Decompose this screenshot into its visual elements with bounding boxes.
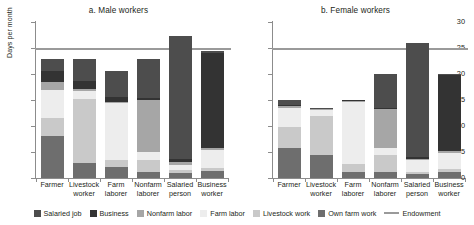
bar-segment [438, 75, 461, 151]
y-axis-tick [31, 100, 36, 101]
x-axis-category-label: Businessworker [429, 181, 469, 198]
bar-segment [105, 71, 128, 97]
x-axis-label-line2: worker [429, 190, 469, 199]
bar-segment [342, 172, 365, 178]
stacked-bar [105, 71, 128, 178]
stacked-bar [278, 100, 301, 178]
y-axis-tick [268, 126, 273, 127]
stacked-bar [169, 36, 192, 178]
legend-label: Business [100, 209, 129, 218]
stacked-bar [342, 99, 365, 178]
bar-segment [73, 99, 96, 162]
figure-stacked-bar-days-per-month: a. Male workers Days per month 051015202… [0, 0, 474, 225]
bar-segment [105, 167, 128, 178]
bar-segment [137, 100, 160, 152]
stacked-bar [201, 51, 224, 178]
bar-segment [438, 153, 461, 170]
stacked-bar [438, 74, 461, 178]
y-axis-tick [31, 74, 36, 75]
legend-label: Livestock work [263, 209, 310, 218]
y-axis-tick [268, 152, 273, 153]
bar-segment [73, 91, 96, 99]
bar-segment [438, 172, 461, 178]
bar-segment [105, 103, 128, 160]
bar-segment [169, 173, 192, 178]
legend-swatch [90, 210, 97, 217]
bar-segment [41, 136, 64, 178]
bar-segment [374, 109, 397, 149]
bar-segment [342, 102, 365, 165]
legend-label: Salaried job [44, 209, 82, 218]
legend-swatch [253, 210, 260, 217]
bar-segment [406, 174, 429, 178]
y-axis-tick-label: 5 [461, 148, 465, 155]
bar-segment [278, 108, 301, 127]
endowment-line [35, 48, 231, 50]
bar-segment [169, 36, 192, 159]
bar-segment [41, 118, 64, 137]
y-axis-tick [268, 74, 273, 75]
legend-label: Own farm work [328, 209, 376, 218]
y-axis-label-male: Days per month [6, 47, 13, 58]
legend-item: Business [90, 209, 129, 218]
legend-swatch [200, 210, 207, 217]
bar-segment [41, 82, 64, 90]
legend-swatch [318, 210, 325, 217]
bar-segment [201, 171, 224, 178]
y-axis-tick-label: 30 [457, 18, 465, 25]
bar-segment [137, 152, 160, 160]
bar-segment [137, 172, 160, 178]
endowment-line [272, 48, 468, 50]
stacked-bar [374, 73, 397, 178]
y-axis-tick [31, 22, 36, 23]
bar-segment [374, 148, 397, 155]
bar-segment [201, 53, 224, 148]
bar-segment [310, 155, 333, 178]
panel-male-workers: a. Male workers Days per month 051015202… [0, 0, 237, 200]
y-axis-tick [31, 152, 36, 153]
bar-segment [374, 172, 397, 178]
stacked-bar [137, 59, 160, 178]
legend-item: Salaried job [34, 209, 82, 218]
stacked-bar [406, 43, 429, 178]
legend-item: Livestock work [253, 209, 310, 218]
panel-title-male: a. Male workers [0, 6, 237, 15]
legend-label: Farm labor [210, 209, 245, 218]
legend-item: Endowment [384, 209, 440, 218]
legend-label: Nonfarm labor [147, 209, 193, 218]
stacked-bar [73, 59, 96, 178]
legend-item: Own farm work [318, 209, 376, 218]
bar-segment [137, 160, 160, 172]
legend-swatch [137, 210, 144, 217]
bar-segment [310, 116, 333, 155]
bar-segment [374, 74, 397, 108]
panel-title-female: b. Female workers [237, 6, 474, 15]
plot-area-male [36, 22, 228, 178]
legend-line-marker [384, 212, 399, 214]
y-axis-tick [31, 126, 36, 127]
bar-segment [201, 150, 224, 168]
x-axis-tick [228, 178, 229, 182]
bar-segment [406, 43, 429, 157]
x-axis-tick [465, 178, 466, 182]
stacked-bar [310, 108, 333, 178]
bar-segment [73, 81, 96, 89]
bar-segment [137, 59, 160, 97]
bar-segment [73, 59, 96, 81]
bar-segment [41, 71, 64, 81]
y-axis-tick [268, 22, 273, 23]
bar-segment [41, 90, 64, 118]
legend-label: Endowment [402, 209, 440, 218]
bar-segment [278, 127, 301, 148]
panel-female-workers: b. Female workers Days per month 0510152… [237, 0, 474, 200]
bar-segment [41, 59, 64, 71]
chart-legend: Salaried jobBusinessNonfarm laborFarm la… [0, 203, 474, 223]
legend-swatch [34, 210, 41, 217]
bar-segment [73, 163, 96, 178]
legend-item: Farm labor [200, 209, 245, 218]
plot-area-female [273, 22, 465, 178]
bar-segment [342, 164, 365, 171]
x-axis-category-label: Businessworker [192, 181, 232, 198]
legend-item: Nonfarm labor [137, 209, 193, 218]
x-axis-label-line2: worker [192, 190, 232, 199]
